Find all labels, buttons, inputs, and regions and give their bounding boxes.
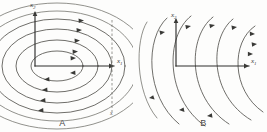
- phase-portrait-panel-a: x2 x1 x A: [0, 0, 133, 132]
- flow-arrow-b-6: [252, 42, 257, 47]
- trajectory-3: [173, 16, 205, 126]
- trajectory-6: [238, 26, 263, 112]
- flow-arrow-b-7: [248, 52, 253, 57]
- flow-arrow-top-2: [75, 38, 81, 43]
- flow-arrow-bottom-1: [44, 77, 50, 82]
- flow-arrow-b-9: [179, 108, 185, 112]
- panel-a-plot: [0, 0, 133, 132]
- x-axis-arrowhead: [244, 64, 249, 69]
- panel-b-y-axis-label: x2: [171, 11, 177, 20]
- trajectory-1: [139, 22, 157, 118]
- trajectory-4: [195, 17, 229, 124]
- phase-portrait-panel-b: x2 x1 B: [133, 0, 266, 132]
- flow-arrow-b-5: [250, 32, 255, 36]
- trajectory-5: [217, 19, 251, 120]
- trajectory-2: [152, 18, 179, 124]
- panel-b-plot: [133, 0, 266, 132]
- panel-b-direction-arrows: [149, 24, 257, 118]
- flow-arrow-b-2: [185, 25, 191, 29]
- panel-b-trajectories: [139, 16, 263, 126]
- flow-arrow-b-1: [159, 31, 165, 35]
- flow-arrow-top-1: [73, 49, 79, 54]
- panel-a-x-axis-label: x1: [117, 57, 123, 66]
- panel-b-x-axis-label: x1: [251, 57, 257, 66]
- panel-a-y-axis-label: x2: [30, 1, 36, 10]
- flow-arrow-bottom-5: [70, 71, 76, 76]
- figure-container: x2 x1 x A: [0, 0, 267, 132]
- x-axis-arrowhead: [109, 64, 114, 69]
- flow-arrow-bottom-2: [42, 88, 48, 93]
- panel-a-caption: A: [0, 118, 133, 128]
- panel-a-tick-label: x: [110, 110, 113, 116]
- flow-arrow-top-5: [71, 56, 77, 61]
- panel-b-caption: B: [133, 118, 266, 128]
- flow-arrow-b-3: [209, 24, 215, 28]
- flow-arrow-b-8: [149, 95, 155, 99]
- flow-arrow-b-4: [231, 26, 237, 30]
